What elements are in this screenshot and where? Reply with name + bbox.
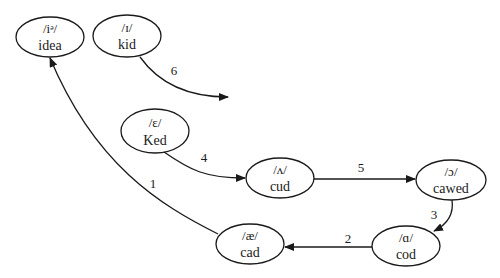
edge-3-label: 3 <box>431 207 438 222</box>
node-cad: /æ/ cad <box>216 224 284 264</box>
edge-4-label: 4 <box>201 150 208 165</box>
node-idea-word: idea <box>38 38 62 53</box>
node-ked: /ɛ/ Ked <box>121 109 189 153</box>
node-kid: /ɪ/ kid <box>93 15 161 57</box>
node-kid-word: kid <box>118 37 136 52</box>
node-kid-ipa: /ɪ/ <box>122 20 133 35</box>
node-cad-ipa: /æ/ <box>242 228 258 243</box>
node-cod-word: cod <box>396 247 416 262</box>
node-cawed-ipa: /ɔ/ <box>445 164 458 179</box>
edge-5-label: 5 <box>358 160 365 175</box>
edge-6-arrow <box>140 57 228 97</box>
node-cod-ipa: /ɑ/ <box>399 230 413 245</box>
node-cawed-word: cawed <box>433 181 469 196</box>
node-cawed: /ɔ/ cawed <box>416 160 486 200</box>
vowel-shift-diagram: 1 2 3 4 5 6 /iᵊ/ idea /ɪ/ kid /ɛ/ Ked /ʌ… <box>0 0 500 278</box>
node-ked-ipa: /ɛ/ <box>149 115 162 130</box>
edge-2-label: 2 <box>345 231 352 246</box>
node-cud: /ʌ/ cud <box>246 158 314 198</box>
edge-1-label: 1 <box>150 176 157 191</box>
node-cud-word: cud <box>270 179 290 194</box>
node-cud-ipa: /ʌ/ <box>273 162 287 177</box>
edge-6-label: 6 <box>171 63 178 78</box>
node-idea: /iᵊ/ idea <box>16 17 84 57</box>
node-cad-word: cad <box>240 245 259 260</box>
node-ked-word: Ked <box>143 133 166 148</box>
node-idea-ipa: /iᵊ/ <box>43 21 58 36</box>
node-cod: /ɑ/ cod <box>372 226 440 266</box>
